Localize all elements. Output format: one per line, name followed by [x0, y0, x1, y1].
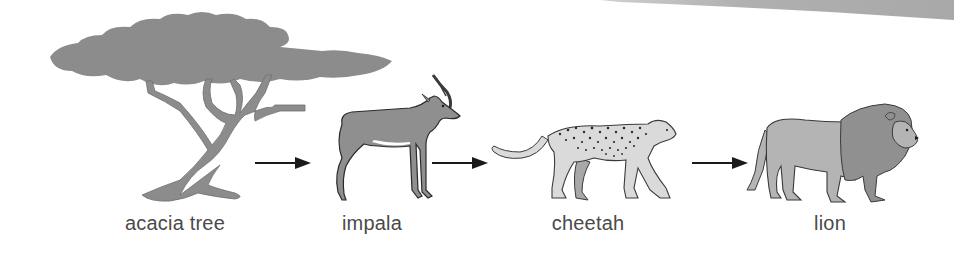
- label-lion: lion: [814, 212, 846, 235]
- cheetah-illustration: [490, 118, 680, 208]
- arrow-icon: [692, 157, 748, 169]
- arrow-icon: [432, 157, 488, 169]
- arrow-icon: [255, 157, 311, 169]
- impala-illustration: [322, 70, 462, 205]
- lion-illustration: [745, 100, 925, 210]
- label-cheetah: cheetah: [552, 212, 625, 235]
- label-impala: impala: [342, 212, 402, 235]
- label-acacia-tree: acacia tree: [125, 212, 225, 235]
